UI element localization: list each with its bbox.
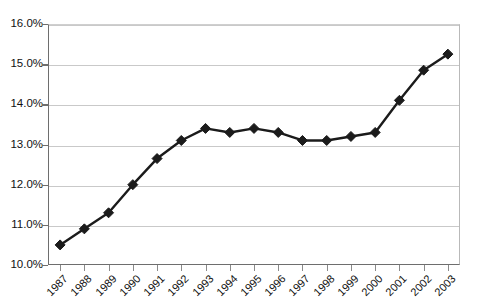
data-point-marker: [201, 123, 211, 133]
data-point-marker: [346, 131, 356, 141]
series-markers: [55, 49, 453, 250]
data-series: [0, 0, 481, 308]
chart-container: 10.0%11.0%12.0%13.0%14.0%15.0%16.0% 1987…: [0, 0, 481, 308]
data-point-marker: [322, 135, 332, 145]
series-line: [60, 54, 448, 245]
data-point-marker: [249, 123, 259, 133]
data-point-marker: [297, 135, 307, 145]
data-point-marker: [273, 127, 283, 137]
data-point-marker: [225, 127, 235, 137]
